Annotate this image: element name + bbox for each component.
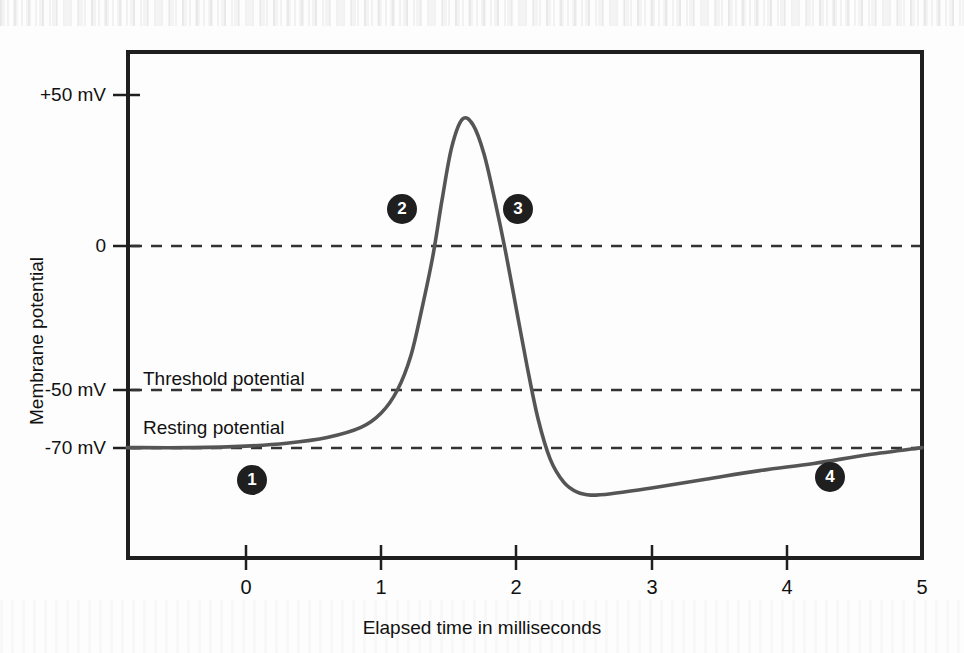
action-potential-figure: +50 mV 0 -50 mV -70 mV Membrane potentia…	[0, 0, 964, 653]
y-tick-label-minus70: -70 mV	[18, 437, 106, 459]
y-tick-label-zero: 0	[18, 235, 106, 257]
x-tick-label-5: 5	[902, 576, 942, 599]
step-marker-4[interactable]: 4	[815, 462, 845, 492]
x-tick-label-4: 4	[767, 576, 807, 599]
resting-potential-label: Resting potential	[143, 417, 285, 439]
x-tick-label-3: 3	[632, 576, 672, 599]
action-potential-chart	[0, 0, 964, 653]
y-axis-title: Membrane potential	[26, 257, 48, 425]
x-tick-label-0: 0	[226, 576, 266, 599]
step-marker-2[interactable]: 2	[387, 194, 417, 224]
step-marker-1[interactable]: 1	[237, 465, 267, 495]
x-tick-label-1: 1	[361, 576, 401, 599]
step-marker-3[interactable]: 3	[503, 194, 533, 224]
x-tick-label-2: 2	[496, 576, 536, 599]
y-tick-label-plus50: +50 mV	[18, 84, 106, 106]
x-axis-title: Elapsed time in milliseconds	[0, 617, 964, 639]
threshold-potential-label: Threshold potential	[143, 368, 305, 390]
